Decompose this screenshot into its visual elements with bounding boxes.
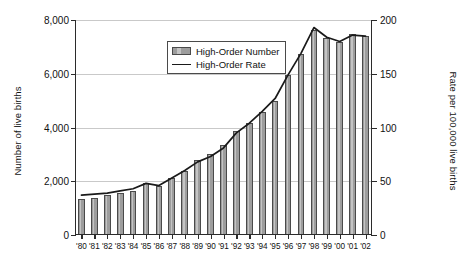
x-axis-tick — [211, 234, 212, 239]
y-axis-left-title: Number of live births — [12, 66, 23, 196]
x-axis-tick-label: '92 — [231, 242, 242, 251]
x-axis-tick-label: '82 — [102, 242, 113, 251]
x-axis-tick-label: '02 — [360, 242, 371, 251]
x-axis-tick — [224, 234, 225, 239]
legend-item-high-order-rate: High-Order Rate — [172, 58, 279, 70]
line-swatch-icon — [172, 60, 191, 68]
x-axis-tick — [81, 234, 82, 239]
x-axis-tick — [288, 234, 289, 239]
x-axis-tick-label: '97 — [296, 242, 307, 251]
x-axis-tick — [340, 234, 341, 239]
x-axis-tick — [249, 234, 250, 239]
y-axis-right-tick-label: 150 — [380, 68, 397, 79]
x-axis-tick — [185, 234, 186, 239]
x-axis-tick — [133, 234, 134, 239]
x-axis-tick-label: '85 — [141, 242, 152, 251]
x-axis-tick — [107, 234, 108, 239]
legend: High-Order Number High-Order Rate — [167, 41, 286, 74]
legend-label: High-Order Number — [196, 46, 279, 57]
bar-swatch-icon — [172, 47, 191, 55]
x-axis-tick — [159, 234, 160, 239]
y-axis-right-tick-label: 200 — [380, 15, 397, 26]
x-axis-tick-label: '90 — [205, 242, 216, 251]
x-axis-tick-label: '87 — [167, 242, 178, 251]
x-axis-tick-label: '89 — [192, 242, 203, 251]
x-axis-tick — [198, 234, 199, 239]
y-axis-left-tick-label: 4,000 — [44, 122, 69, 133]
x-axis-tick-label: '96 — [283, 242, 294, 251]
x-axis-tick-label: '80 — [76, 242, 87, 251]
y-axis-left-tick-label: 8,000 — [44, 15, 69, 26]
y-axis-left-tick-label: 0 — [63, 230, 69, 241]
x-axis-tick-label: '91 — [218, 242, 229, 251]
y-axis-right-tick-label: 50 — [380, 176, 391, 187]
x-axis-tick — [146, 234, 147, 239]
x-axis-tick — [327, 234, 328, 239]
x-axis-tick-label: '95 — [270, 242, 281, 251]
x-axis-tick — [262, 234, 263, 239]
y-axis-left-tick-label: 2,000 — [44, 176, 69, 187]
y-axis-left-line — [75, 20, 76, 235]
x-axis-tick — [275, 234, 276, 239]
x-axis-tick-label: '99 — [321, 242, 332, 251]
y-axis-left-tick-label: 6,000 — [44, 68, 69, 79]
x-axis-tick — [172, 234, 173, 239]
plot-area: 02,0004,0006,0008,000 050100150200 '80'8… — [75, 20, 372, 235]
y-axis-right-tick-label: 100 — [380, 122, 397, 133]
x-axis-tick — [366, 234, 367, 239]
x-axis-tick-label: '81 — [89, 242, 100, 251]
x-axis-tick — [314, 234, 315, 239]
x-axis-tick-label: '84 — [128, 242, 139, 251]
x-axis-tick — [120, 234, 121, 239]
y-axis-right-title: Rate per 100,000 live births — [448, 46, 459, 216]
legend-item-high-order-number: High-Order Number — [172, 45, 279, 57]
legend-label: High-Order Rate — [196, 59, 266, 70]
x-axis-tick-label: '00 — [334, 242, 345, 251]
x-axis-tick-label: '01 — [347, 242, 358, 251]
y-axis-right-tick-label: 0 — [380, 230, 386, 241]
x-axis-tick-label: '88 — [179, 242, 190, 251]
x-axis-tick-label: '94 — [257, 242, 268, 251]
y-axis-right-line — [371, 20, 372, 235]
x-axis-tick-label: '86 — [154, 242, 165, 251]
x-axis-tick — [301, 234, 302, 239]
x-axis-tick — [94, 234, 95, 239]
x-axis-tick-label: '93 — [244, 242, 255, 251]
x-axis-tick — [353, 234, 354, 239]
x-axis-tick-label: '83 — [115, 242, 126, 251]
x-axis-tick-label: '98 — [309, 242, 320, 251]
x-axis-tick — [236, 234, 237, 239]
